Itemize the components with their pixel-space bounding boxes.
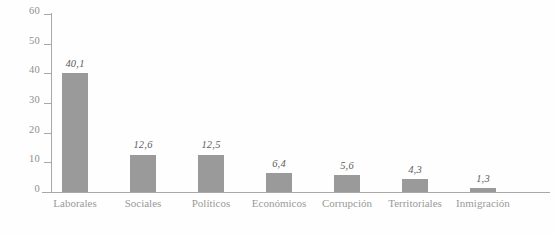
bar-value-label: 4,3 <box>381 165 449 176</box>
bar[interactable] <box>402 179 428 192</box>
bar-value-label: 40,1 <box>41 59 109 70</box>
bar[interactable] <box>266 173 292 192</box>
bar-value-label: 1,3 <box>449 174 517 185</box>
bar[interactable] <box>62 73 88 192</box>
bar[interactable] <box>198 155 224 192</box>
bar-value-label: 12,5 <box>177 140 245 151</box>
bar[interactable] <box>130 155 156 192</box>
x-axis-category-label: Inmigración <box>440 197 526 209</box>
bar-value-label: 5,6 <box>313 161 381 172</box>
bar-value-label: 12,6 <box>109 140 177 151</box>
bar-chart: 6050403020100 40,112,612,56,45,64,31,3 L… <box>0 0 554 234</box>
bar-value-label: 6,4 <box>245 159 313 170</box>
bar[interactable] <box>334 175 360 192</box>
bar[interactable] <box>470 188 496 192</box>
